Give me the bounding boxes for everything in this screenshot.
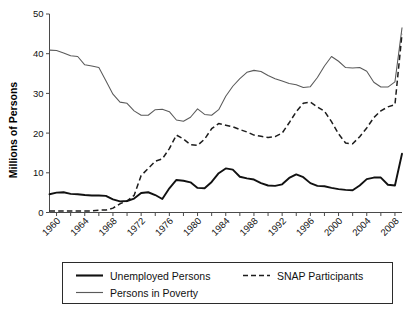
y-tick-label: 40 [33,48,44,59]
y-axis-title-group: Millions of Persons [7,82,19,178]
y-tick-label: 20 [33,128,44,139]
legend-label-unemployed-persons: Unemployed Persons [110,270,210,282]
y-axis-title: Millions of Persons [7,82,19,178]
chart-figure: Millions of Persons 01020304050 19601964… [0,0,413,311]
y-tick-label: 0 [38,207,43,218]
chart-background [0,0,413,311]
y-tick-label: 30 [33,88,44,99]
y-tick-label: 10 [33,167,44,178]
line-chart-canvas: Millions of Persons 01020304050 19601964… [0,0,413,311]
legend-label-persons-in-poverty: Persons in Poverty [110,287,199,299]
legend-label-snap-participants: SNAP Participants [277,270,363,282]
y-tick-label: 50 [33,8,44,19]
